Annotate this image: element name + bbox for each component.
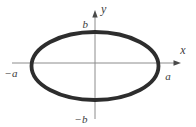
y-intercept-negative-label: −b (75, 113, 88, 125)
x-axis-arrow-icon (174, 60, 182, 65)
figure-canvas: y x b −b a −a (0, 0, 196, 127)
y-axis-arrow-icon (92, 10, 97, 18)
x-axis-label: x (179, 43, 186, 57)
y-axis-label: y (100, 2, 107, 16)
x-intercept-positive-label: a (165, 70, 171, 82)
ellipse-figure: y x b −b a −a (0, 0, 196, 127)
x-intercept-negative-label: −a (5, 67, 18, 79)
y-intercept-positive-label: b (83, 18, 89, 30)
